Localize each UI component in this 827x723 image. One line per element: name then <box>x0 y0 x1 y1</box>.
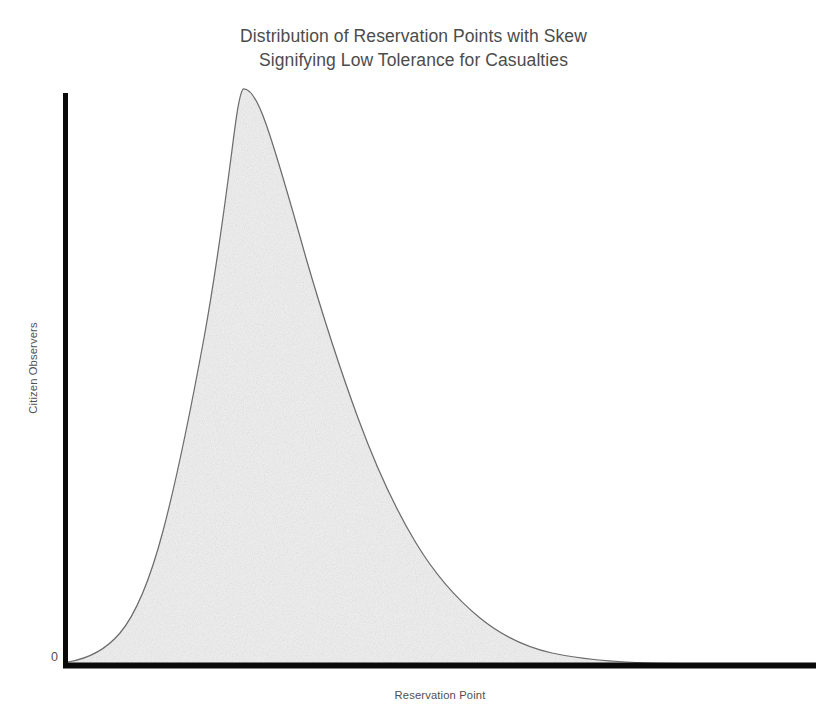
area-texture <box>60 80 820 670</box>
y-axis-origin-tick-label: 0 <box>44 650 58 664</box>
chart-figure: Distribution of Reservation Points with … <box>0 0 827 723</box>
plot-area <box>0 0 827 723</box>
distribution-curve-svg <box>0 0 827 723</box>
x-axis-label: Reservation Point <box>65 689 815 701</box>
y-axis-label: Citizen Observers <box>27 278 41 458</box>
